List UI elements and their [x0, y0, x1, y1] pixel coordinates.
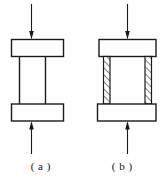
top-plate-b	[99, 40, 156, 57]
bottom-plate-b	[98, 104, 157, 121]
caption-row: ( a ) ( b )	[0, 158, 163, 180]
caption-a: ( a )	[0, 158, 82, 180]
top-plate-a	[12, 40, 64, 57]
bottom-plate-a	[12, 104, 64, 121]
hatched-strip-left-b	[104, 57, 111, 105]
figure-panel: ( a ) ( b )	[0, 0, 163, 186]
hatched-strip-right-b	[145, 57, 152, 105]
caption-b: ( b )	[82, 158, 164, 180]
